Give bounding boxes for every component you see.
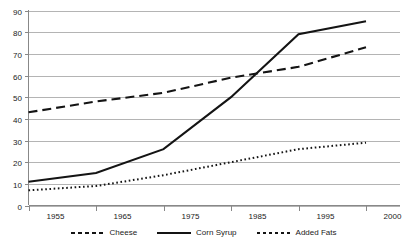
y-tick-label: 80: [13, 29, 22, 38]
line-chart: 0102030405060708090 19551965197519851995…: [0, 0, 407, 239]
series-line-added-fats: [29, 143, 367, 191]
y-tick-label: 10: [13, 181, 22, 190]
x-tick-label: 2000: [384, 212, 402, 221]
legend-label: Cheese: [110, 228, 138, 237]
chart-legend: CheeseCorn SyrupAdded Fats: [0, 228, 407, 237]
legend-label: Corn Syrup: [196, 228, 236, 237]
x-tick-label: 1955: [47, 212, 65, 221]
x-tick-label: 1965: [114, 212, 132, 221]
y-tick-label: 0: [18, 203, 23, 212]
y-tick-label: 50: [13, 94, 22, 103]
x-tick-label: 1995: [317, 212, 335, 221]
chart-plot-area: 0102030405060708090 19551965197519851995…: [0, 0, 407, 239]
legend-item-cheese[interactable]: Cheese: [71, 228, 138, 237]
y-tick-label: 70: [13, 51, 22, 60]
y-tick-label: 30: [13, 138, 22, 147]
x-axis-tick-labels: 195519651975198519952000: [47, 212, 402, 221]
y-tick-label: 60: [13, 73, 22, 82]
legend-item-added-fats[interactable]: Added Fats: [257, 228, 337, 237]
x-tick-label: 1985: [249, 212, 267, 221]
y-tick-label: 40: [13, 116, 22, 125]
legend-item-corn-syrup[interactable]: Corn Syrup: [157, 228, 236, 237]
gridlines: [25, 12, 400, 207]
y-tick-label: 20: [13, 159, 22, 168]
x-tick-label: 1975: [182, 212, 200, 221]
y-tick-label: 90: [13, 8, 22, 17]
legend-swatch-icon: [71, 232, 105, 234]
axis-lines: [29, 10, 401, 206]
series-line-cheese: [29, 47, 367, 112]
legend-swatch-icon: [257, 232, 291, 234]
data-series: [29, 21, 367, 190]
legend-label: Added Fats: [296, 228, 337, 237]
legend-swatch-icon: [157, 232, 191, 234]
series-line-corn-syrup: [29, 21, 367, 181]
y-axis-tick-labels: 0102030405060708090: [13, 8, 22, 212]
